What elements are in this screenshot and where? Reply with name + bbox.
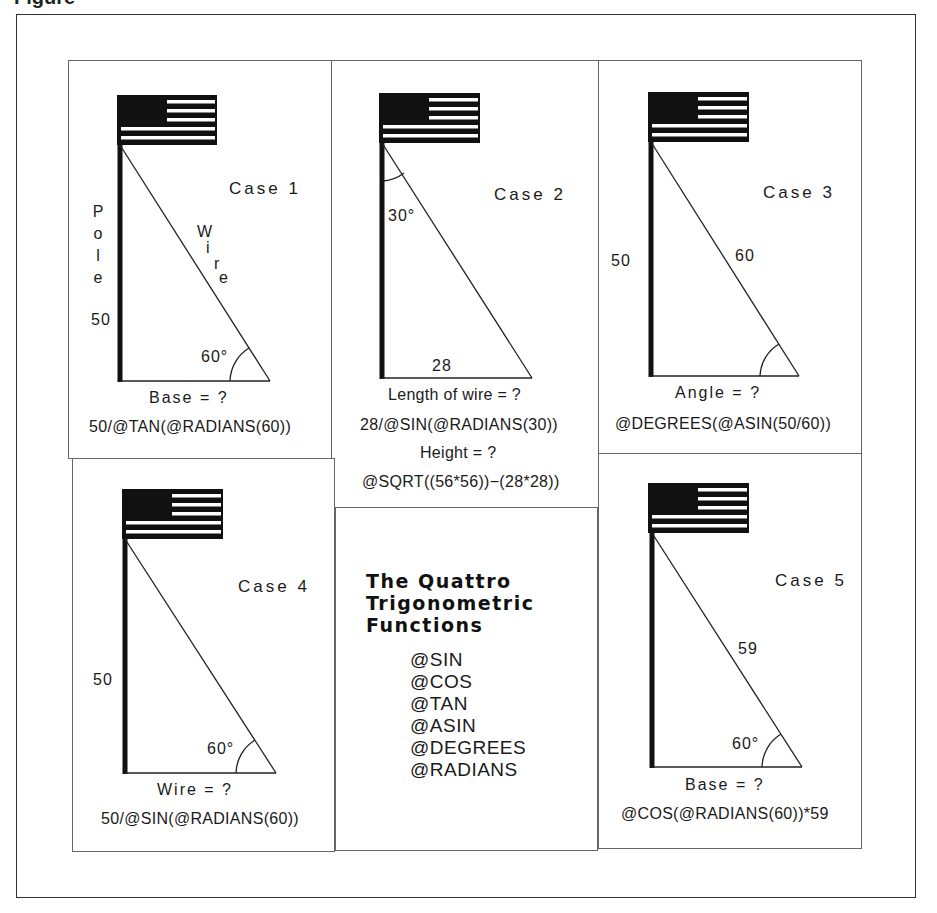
question-label: Angle = ? [675,384,761,402]
function-item: @TAN [410,693,526,715]
pole-height-value: 50 [93,671,113,689]
case-title: Case 5 [775,571,847,591]
angle-arc [236,740,255,773]
angle-arc [762,734,781,767]
case-title: Case 3 [763,183,835,203]
flag-icon [379,93,480,143]
angle-label: 30° [388,207,415,225]
function-item: @COS [410,671,526,693]
flag-icon [117,95,217,145]
formula: @DEGREES(@ASIN(50/60)) [615,415,831,433]
question-label: Base = ? [685,776,765,794]
formula-2: @SQRT((56*56))−(28*28)) [362,473,560,491]
flagpole-diagram [332,61,600,509]
function-item: @RADIANS [410,759,526,781]
case-2-panel: Case 2 30° 28 Length of wire = ? 28/@SIN… [331,60,599,508]
figure-caption: Figure [14,0,75,9]
angle-arc [382,173,404,181]
function-item: @DEGREES [410,737,526,759]
flag-icon [648,483,749,533]
wire-line [651,142,799,376]
functions-panel: The Quattro Trigonometric Functions @SIN… [335,507,598,851]
case-4-panel: Case 4 50 60° Wire = ? 50/@SIN(@RADIANS(… [72,458,335,852]
angle-label: 60° [201,348,228,366]
formula: @COS(@RADIANS(60))*59 [621,805,829,823]
wire-length-value: 59 [738,640,758,658]
pole-height-value: 50 [611,252,631,270]
wire-line [382,143,532,378]
formula: 28/@SIN(@RADIANS(30)) [360,416,558,434]
question-label-2: Height = ? [420,444,496,462]
functions-list: @SIN @COS @TAN @ASIN @DEGREES @RADIANS [410,649,526,781]
angle-arc [230,348,249,381]
case-title: Case 1 [229,179,301,199]
case-title: Case 2 [494,185,566,205]
question-label: Base = ? [149,389,229,407]
angle-arc [760,344,779,376]
wire-line [125,539,276,773]
question-label: Wire = ? [157,781,233,799]
pole-label: Po le [91,201,105,289]
function-item: @ASIN [410,715,526,737]
case-1-panel: Case 1 Po le W i r e 50 60° Base = ? 50/… [68,60,332,459]
formula: 50/@TAN(@RADIANS(60)) [89,418,291,436]
formula: 50/@SIN(@RADIANS(60)) [101,810,299,828]
wire-length-value: 60 [735,247,755,265]
angle-label: 60° [732,735,759,753]
question-label: Length of wire = ? [388,386,521,404]
function-item: @SIN [410,649,526,671]
functions-panel-title: The Quattro Trigonometric Functions [366,570,534,636]
case-title: Case 4 [238,577,310,597]
wire-line [652,533,802,767]
pole-height-value: 50 [91,311,111,329]
flag-icon [648,92,749,142]
flag-icon [122,489,223,539]
angle-label: 60° [207,740,234,758]
case-3-panel: Case 3 50 60 Angle = ? @DEGREES(@ASIN(50… [598,60,862,454]
case-5-panel: Case 5 59 60° Base = ? @COS(@RADIANS(60)… [598,453,862,849]
base-value: 28 [432,357,452,375]
